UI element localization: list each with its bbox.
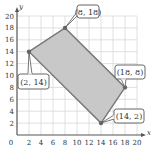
y-tick-label: 2 xyxy=(10,120,14,128)
x-tick-label: 20 xyxy=(133,139,142,147)
y-tick-label: 10 xyxy=(5,72,14,80)
x-tick-label: 12 xyxy=(85,139,94,147)
plot-area: 024681012141618202468101214161820 (2, 14… xyxy=(0,0,154,151)
x-tick-label: 10 xyxy=(73,139,82,147)
x-tick-label: 14 xyxy=(97,139,106,147)
y-tick-label: 16 xyxy=(5,36,14,44)
y-tick-label: 20 xyxy=(5,13,14,21)
vertex-label-text: (18, 8) xyxy=(117,68,144,77)
vertex-label-text: (8, 18) xyxy=(75,8,102,17)
x-tick-label: 8 xyxy=(63,139,67,147)
y-tick-label: 4 xyxy=(10,108,15,116)
chart-container: 024681012141618202468101214161820 (2, 14… xyxy=(0,0,154,151)
y-tick-label: 6 xyxy=(10,96,15,104)
vertex-label-text: (2, 14) xyxy=(20,78,47,87)
x-tick-label: 4 xyxy=(39,139,44,147)
y-tick-label: 18 xyxy=(5,24,14,32)
vertex-label-text: (14, 2) xyxy=(116,112,143,121)
y-tick-label: 8 xyxy=(10,84,14,92)
y-axis-label: y xyxy=(18,3,24,11)
x-tick-label: 18 xyxy=(121,139,130,147)
y-tick-label: 12 xyxy=(5,60,14,68)
x-axis-arrow-icon xyxy=(141,133,146,137)
x-axis-label: x xyxy=(147,129,151,137)
x-tick-label: 6 xyxy=(51,139,56,147)
x-tick-label: 2 xyxy=(27,139,31,147)
x-tick-label: 0 xyxy=(9,139,13,147)
y-tick-label: 14 xyxy=(5,48,14,56)
x-tick-label: 16 xyxy=(109,139,118,147)
